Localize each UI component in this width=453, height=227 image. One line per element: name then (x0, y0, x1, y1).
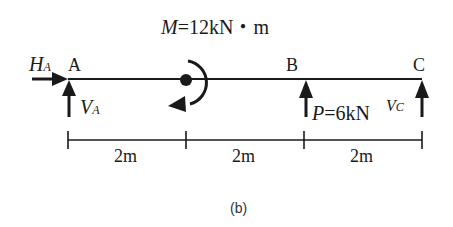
beam-diagram: HA A VA M=12kN・m B C P=6kN VC 2m 2m 2m (… (0, 0, 453, 227)
p-arrow-icon (299, 80, 313, 117)
va-arrow-icon (62, 80, 76, 117)
moment-point-icon (180, 74, 192, 86)
dimension-b-mid: 2m (232, 147, 255, 165)
moment-arc-icon (168, 61, 206, 112)
figure-caption: (b) (230, 200, 247, 216)
point-a-label: A (68, 56, 81, 74)
vc-label: VC (386, 98, 404, 114)
ha-label: HA (29, 54, 51, 74)
dimension-ab: 2m (114, 147, 137, 165)
vc-arrow-icon (415, 80, 429, 117)
va-label: VA (80, 97, 100, 117)
point-b-label: B (286, 56, 298, 74)
point-c-label: C (413, 56, 425, 74)
dimension-bc: 2m (350, 147, 373, 165)
moment-label: M=12kN・m (161, 17, 269, 37)
p-load-label: P=6kN (312, 103, 370, 123)
